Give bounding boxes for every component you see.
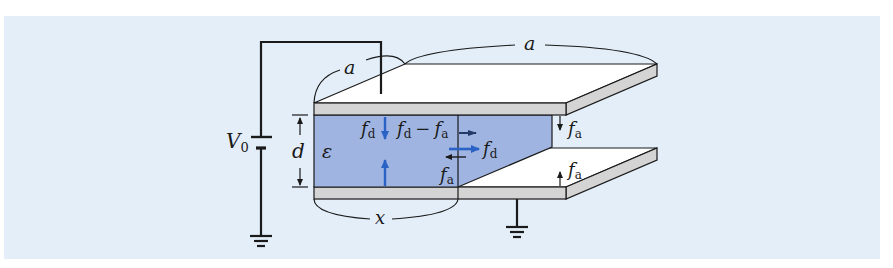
label-x: x <box>375 207 385 228</box>
label-fd-minus-fa: fd−fa <box>395 118 448 141</box>
battery-icon <box>251 137 272 148</box>
label-permittivity: ε <box>322 140 332 162</box>
label-a-left: a <box>344 56 355 78</box>
ground-icon-left <box>250 236 272 246</box>
label-fa-upper-right: fa <box>566 118 582 141</box>
label-d: d <box>292 139 305 163</box>
capacitor-diagram: a a x d V0 ε fd fd−fa fd fa fa fa <box>0 0 893 268</box>
dimension-x <box>314 199 458 219</box>
ground-icon-right <box>506 227 528 237</box>
top-plate <box>314 64 657 115</box>
label-a-back: a <box>524 32 535 54</box>
label-voltage: V0 <box>226 129 249 155</box>
